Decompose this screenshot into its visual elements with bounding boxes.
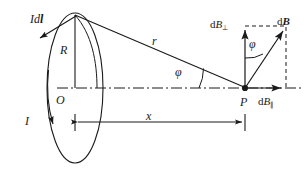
label-dB-perp-subscript: ⊥ [222, 24, 228, 31]
label-axial-distance: x [146, 110, 151, 122]
label-angle-phi-vector: φ [249, 38, 256, 50]
label-current: I [25, 115, 29, 127]
angle-phi-axis-arc [199, 69, 204, 89]
label-center: O [56, 94, 65, 106]
label-dB-total: dB [277, 16, 290, 27]
label-dB-parallel: dB∥ [258, 96, 274, 109]
label-angle-phi-axis: φ [175, 66, 182, 78]
label-field-point: P [240, 96, 247, 108]
physics-diagram-magnetic-field-loop: Iddll R O I r φ x P dB⊥ dB dB∥ φ [0, 0, 307, 177]
label-dB-vector-symbol: B [283, 15, 290, 27]
label-dB-perp: dB⊥ [210, 19, 228, 32]
loop-perspective-arc [75, 15, 97, 88]
label-dB-par-subscript: ∥ [270, 101, 274, 108]
angle-phi-vector-arc [245, 54, 263, 58]
label-current-element: Iddll [30, 13, 43, 25]
current-element-arrow [40, 16, 76, 38]
label-radius: R [60, 44, 67, 56]
label-distance-r: r [152, 35, 157, 47]
diagram-canvas [0, 0, 307, 177]
